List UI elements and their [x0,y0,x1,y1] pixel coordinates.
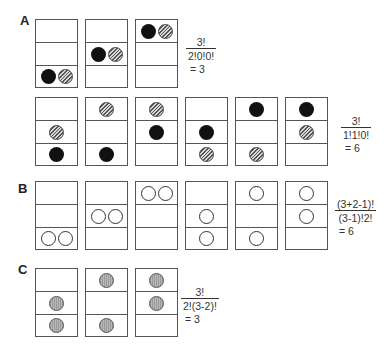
hatched-ball-icon [58,69,73,84]
state-cell [86,120,127,143]
occupancy-box [85,97,128,166]
state-cell [86,20,127,43]
state-cell [236,182,277,205]
state-cell [36,20,77,43]
hatched-ball-icon [299,125,314,140]
open-ball-icon [158,186,173,201]
formula-denominator: 2!(3-2)! [181,298,219,312]
state-cell [86,182,127,205]
black-ball-icon [99,147,114,162]
open-ball-icon [299,209,314,224]
state-cell [86,98,127,121]
panel-c-formula: 3! 2!(3-2)! = 3 [181,286,219,325]
hatched-ball-icon [199,147,214,162]
state-cell [86,65,127,87]
state-cell [86,269,127,292]
state-cell [186,98,227,121]
state-cell [86,291,127,314]
state-cell [36,120,77,143]
state-cell [136,98,177,121]
formula-numerator: 3! [181,286,219,298]
panel-b-label: B [18,181,27,196]
hatched-ball-icon [108,47,123,62]
formula-numerator: 3! [341,115,371,127]
occupancy-box [135,268,178,337]
occupancy-box [35,97,78,166]
state-cell [186,120,227,143]
black-ball-icon [91,47,106,62]
occupancy-box [135,19,178,88]
state-cell [236,143,277,165]
panel-a-label: A [20,13,29,28]
state-cell [236,204,277,227]
gray-ball-icon [149,296,164,311]
occupancy-box [85,181,128,250]
state-cell [286,182,327,205]
open-ball-icon [141,186,156,201]
state-cell [136,42,177,65]
state-cell [36,65,77,87]
state-cell [136,314,177,336]
occupancy-box [135,181,178,250]
state-cell [36,291,77,314]
occupancy-box [235,181,278,250]
gray-ball-icon [49,318,64,333]
black-ball-icon [49,147,64,162]
state-cell [36,98,77,121]
state-cell [186,182,227,205]
occupancy-box [85,268,128,337]
state-cell [36,269,77,292]
state-cell [136,65,177,87]
state-cell [136,120,177,143]
state-cell [36,227,77,249]
state-cell [186,143,227,165]
gray-ball-icon [99,273,114,288]
state-cell [236,227,277,249]
black-ball-icon [141,24,156,39]
state-cell [136,20,177,43]
occupancy-box [85,19,128,88]
occupancy-box [35,181,78,250]
panel-b-formula: (3+2-1)! (3-1)!2! = 6 [335,198,376,237]
state-cell [36,143,77,165]
formula-denominator: 2!0!0! [186,48,216,62]
state-cell [286,120,327,143]
open-ball-icon [41,231,56,246]
open-ball-icon [108,209,123,224]
state-cell [86,42,127,65]
open-ball-icon [91,209,106,224]
occupancy-box [35,268,78,337]
state-cell [286,204,327,227]
state-cell [136,182,177,205]
state-cell [136,143,177,165]
state-cell [136,269,177,292]
panel-a-row1-formula: 3! 2!0!0! = 3 [186,36,216,75]
state-cell [236,120,277,143]
panel-a-row2-formula: 3! 1!1!0! = 6 [341,115,371,154]
state-cell [36,204,77,227]
formula-denominator: (3-1)!2! [335,210,376,224]
hatched-ball-icon [99,102,114,117]
state-cell [136,227,177,249]
state-cell [36,42,77,65]
panel-c-label: C [18,262,27,277]
state-cell [86,227,127,249]
formula-result: = 6 [335,225,376,237]
state-cell [236,98,277,121]
gray-ball-icon [49,296,64,311]
formula-numerator: (3+2-1)! [335,198,376,210]
state-cell [286,227,327,249]
state-cell [186,204,227,227]
formula-denominator: 1!1!0! [341,127,371,141]
black-ball-icon [299,102,314,117]
formula-result: = 3 [181,313,219,325]
open-ball-icon [249,231,264,246]
state-cell [136,291,177,314]
open-ball-icon [299,186,314,201]
occupancy-box [35,19,78,88]
formula-result: = 6 [341,142,371,154]
state-cell [86,204,127,227]
open-ball-icon [199,209,214,224]
hatched-ball-icon [49,125,64,140]
gray-ball-icon [149,273,164,288]
